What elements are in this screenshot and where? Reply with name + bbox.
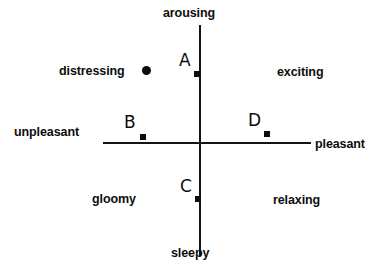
point-label-b: B xyxy=(124,114,136,131)
quadrant-label-relaxing: relaxing xyxy=(273,193,320,207)
axis-label-sleepy: sleepy xyxy=(171,246,209,260)
point-label-a: A xyxy=(179,52,191,69)
point-label-c: C xyxy=(180,178,192,195)
point-label-d: D xyxy=(248,112,261,129)
axis-label-pleasant: pleasant xyxy=(315,137,365,151)
figure-canvas: arousing sleepy unpleasant pleasant dist… xyxy=(0,0,385,279)
point-marker-c xyxy=(195,196,201,202)
quadrant-label-exciting: exciting xyxy=(277,65,323,79)
vertical-axis-line xyxy=(199,25,201,256)
caption-remnant xyxy=(0,272,385,279)
quadrant-label-distressing: distressing xyxy=(59,64,125,78)
axis-label-unpleasant: unpleasant xyxy=(14,125,79,139)
quadrant-label-gloomy: gloomy xyxy=(92,192,136,206)
point-marker-a xyxy=(194,71,200,77)
point-marker-d xyxy=(264,131,270,137)
horizontal-axis-line xyxy=(103,142,311,144)
axis-label-arousing: arousing xyxy=(163,6,215,20)
distressing-circle-marker xyxy=(142,66,151,75)
point-marker-b xyxy=(140,134,146,140)
